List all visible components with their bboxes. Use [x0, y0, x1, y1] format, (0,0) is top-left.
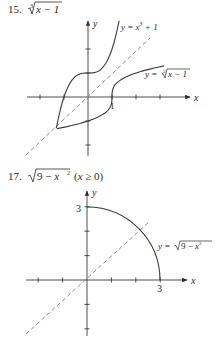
graph-17: x y 3 3 y = 9 − x2 — [26, 187, 212, 336]
square-root-expression: 9 − x 2 (x ≥ 0) — [28, 169, 104, 183]
figure-page: 15. 3 x − 1 x y 1 y = x3 + 1 y = 3 x − 1… — [0, 0, 215, 340]
x-tick-label-1: 1 — [110, 101, 115, 111]
y-tick-label-3: 3 — [76, 203, 81, 214]
svg-text:(x ≥ 0): (x ≥ 0) — [74, 170, 104, 183]
radicand: x − 1 — [35, 3, 59, 15]
graph-15: x y 1 y = x3 + 1 y = 3 x − 1 — [26, 18, 199, 156]
exponent: 2 — [67, 170, 70, 176]
svg-text:9 − x: 9 − x — [37, 170, 59, 182]
problem-number: 17. — [8, 170, 22, 182]
x-tick-label-3: 3 — [157, 283, 162, 294]
x-axis-label: x — [190, 275, 196, 286]
y-axis-label: y — [92, 18, 98, 29]
curve-label-sqrt: y = 9 − x2 — [157, 241, 212, 251]
problem-15-heading: 15. 3 x − 1 — [8, 2, 62, 15]
svg-text:9 − x2: 9 − x2 — [181, 241, 202, 251]
line-y-equals-x — [26, 221, 150, 334]
svg-text:y =: y = — [144, 69, 157, 79]
y-axis-label: y — [91, 187, 97, 198]
problem-number: 15. — [8, 3, 22, 15]
svg-text:y =: y = — [157, 241, 170, 251]
svg-text:x − 1: x − 1 — [167, 69, 187, 79]
curve-label-cube-root: y = 3 x − 1 — [144, 69, 190, 79]
x-axis-label: x — [193, 92, 199, 103]
cube-root-expression: 3 x − 1 — [28, 2, 62, 15]
svg-text:3: 3 — [163, 69, 166, 74]
curve-quarter-circle — [87, 207, 160, 280]
problem-17-heading: 17. 9 − x 2 (x ≥ 0) — [8, 169, 104, 183]
curve-label-cubic: y = x3 + 1 — [120, 21, 158, 32]
